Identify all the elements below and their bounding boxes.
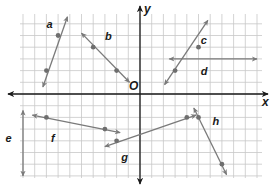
point-on-line-h (220, 162, 225, 167)
line-a-label: a (46, 18, 52, 30)
coordinate-plane-diagram: yxOabcdefgh (0, 0, 274, 189)
point-on-line-b (91, 45, 96, 50)
point-on-line-g (184, 115, 189, 120)
grid-lines (20, 14, 262, 178)
line-g-label: g (120, 151, 128, 163)
point-on-line-f (103, 127, 108, 132)
point-on-line-a (56, 33, 61, 38)
line-c-label: c (201, 34, 207, 46)
y-axis-label: y (143, 2, 152, 16)
x-axis-label: x (261, 95, 270, 109)
line-d-label: d (201, 65, 208, 77)
point-on-line-f (44, 115, 49, 120)
axes (8, 6, 268, 184)
origin-label: O (129, 79, 139, 93)
line-e-label: e (5, 132, 11, 144)
point-on-line-g (114, 138, 119, 143)
point-on-line-b (114, 68, 119, 73)
line-b-label: b (105, 30, 112, 42)
point-on-line-a (44, 68, 49, 73)
line-f-label: f (51, 132, 56, 144)
line-g (105, 115, 196, 147)
point-on-line-c (173, 68, 178, 73)
line-h-label: h (213, 115, 220, 127)
point-on-line-h (196, 115, 201, 120)
